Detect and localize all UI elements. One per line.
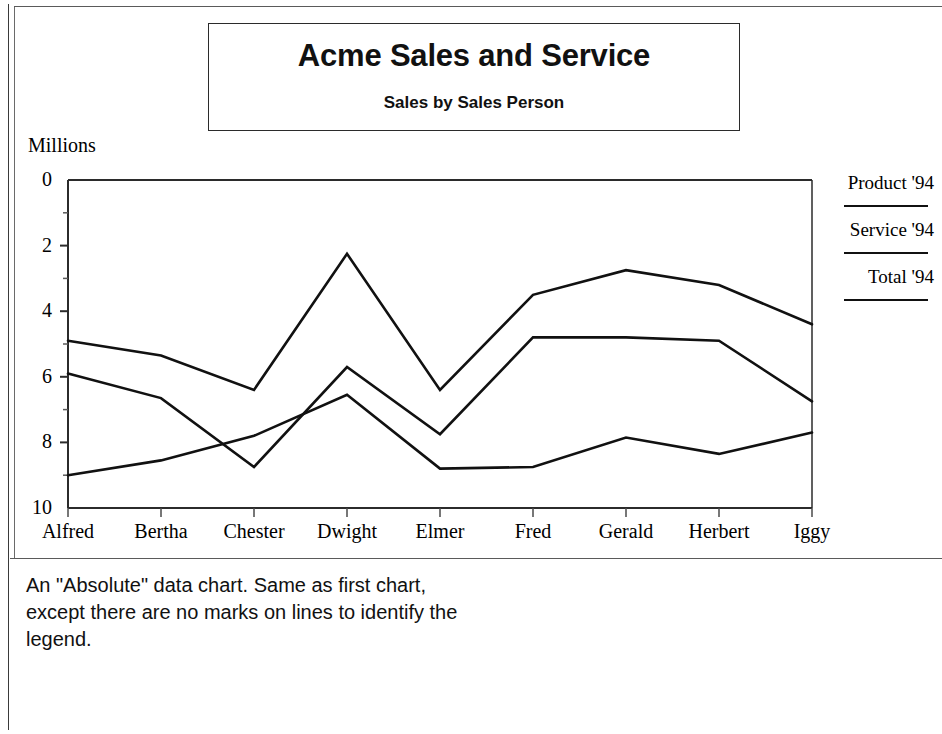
y-axis-tick-label: 8	[18, 431, 52, 451]
legend-entry: Product '94	[822, 172, 934, 207]
legend-label: Total '94	[822, 266, 934, 288]
x-axis-tick-label: Iggy	[757, 520, 867, 542]
legend-label: Product '94	[822, 172, 934, 194]
series-line-total-94	[68, 254, 812, 390]
legend-line-swatch	[844, 205, 928, 207]
figure-caption: An "Absolute" data chart. Same as first …	[26, 572, 666, 653]
legend-line-swatch	[844, 299, 928, 301]
series-line-product-94	[68, 337, 812, 467]
legend-entry: Total '94	[822, 266, 934, 301]
legend-entry: Service '94	[822, 219, 934, 254]
y-axis-tick-label: 6	[18, 366, 52, 386]
chart-legend: Product '94Service '94Total '94	[822, 172, 934, 313]
y-axis-tick-label: 2	[18, 235, 52, 255]
y-axis-tick-label: 10	[18, 497, 52, 517]
y-axis-tick-label: 4	[18, 300, 52, 320]
legend-line-swatch	[844, 252, 928, 254]
line-chart-svg	[0, 0, 942, 560]
legend-label: Service '94	[822, 219, 934, 241]
chart-plot-area: 1086420 AlfredBerthaChesterDwightElmerFr…	[0, 0, 942, 560]
y-axis-tick-label: 0	[18, 169, 52, 189]
